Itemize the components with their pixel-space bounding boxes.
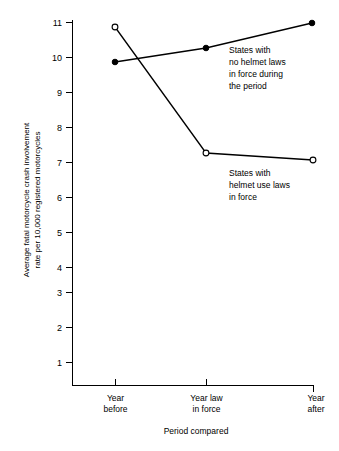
chart-figure: 11 10 9 8 7 6 5 4 3 2 1 Year before Year… xyxy=(0,0,339,451)
annotation-helmet-use-laws-line1: States with xyxy=(229,168,271,178)
data-point-helmet-use-laws-year-before xyxy=(112,24,118,30)
data-point-no-helmet-laws-year-before xyxy=(112,59,118,65)
line-chart: 11 10 9 8 7 6 5 4 3 2 1 Year before Year… xyxy=(0,0,339,451)
x-axis-title: Period compared xyxy=(164,426,229,436)
data-point-helmet-use-laws-year-law-in-force xyxy=(203,150,209,156)
series-line-helmet-use-laws xyxy=(115,27,313,160)
annotation-no-helmet-laws-line3: in force during xyxy=(229,69,283,79)
annotation-helmet-use-laws-line3: in force xyxy=(229,192,257,202)
y-tick-label-7: 7 xyxy=(57,158,62,168)
y-tick-label-6: 6 xyxy=(57,193,62,203)
y-tick-label-5: 5 xyxy=(57,228,62,238)
y-tick-label-2: 2 xyxy=(57,323,62,333)
y-tick-label-10: 10 xyxy=(52,53,62,63)
y-tick-label-4: 4 xyxy=(57,263,62,273)
x-tick-label-year-law-line1: Year law xyxy=(190,393,223,403)
x-tick-label-year-after-line1: Year xyxy=(307,393,324,403)
y-tick-label-8: 8 xyxy=(57,123,62,133)
data-point-helmet-use-laws-year-after xyxy=(310,157,316,163)
data-point-no-helmet-laws-year-after xyxy=(309,20,315,26)
annotation-helmet-use-laws-line2: helmet use laws xyxy=(229,180,290,190)
y-axis-title-line1: Average fatal motorcycle crash involveme… xyxy=(22,122,31,277)
y-tick-label-1: 1 xyxy=(57,358,62,368)
x-tick-label-year-before-line2: before xyxy=(103,404,127,414)
annotation-no-helmet-laws-line1: States with xyxy=(229,45,271,55)
y-tick-label-11: 11 xyxy=(53,18,62,28)
annotation-no-helmet-laws-line4: the period xyxy=(229,81,267,91)
annotation-no-helmet-laws-line2: no helmet laws xyxy=(229,57,286,67)
x-tick-label-year-after-line2: after xyxy=(307,404,324,414)
y-axis-title-line2: rate per 10,000 registered motorcycles xyxy=(33,132,42,269)
x-tick-label-year-law-line2: in force xyxy=(193,404,221,414)
data-point-no-helmet-laws-year-law-in-force xyxy=(203,45,209,51)
x-tick-label-year-before-line1: Year xyxy=(107,393,124,403)
y-tick-label-9: 9 xyxy=(57,88,62,98)
y-tick-label-3: 3 xyxy=(57,288,62,298)
